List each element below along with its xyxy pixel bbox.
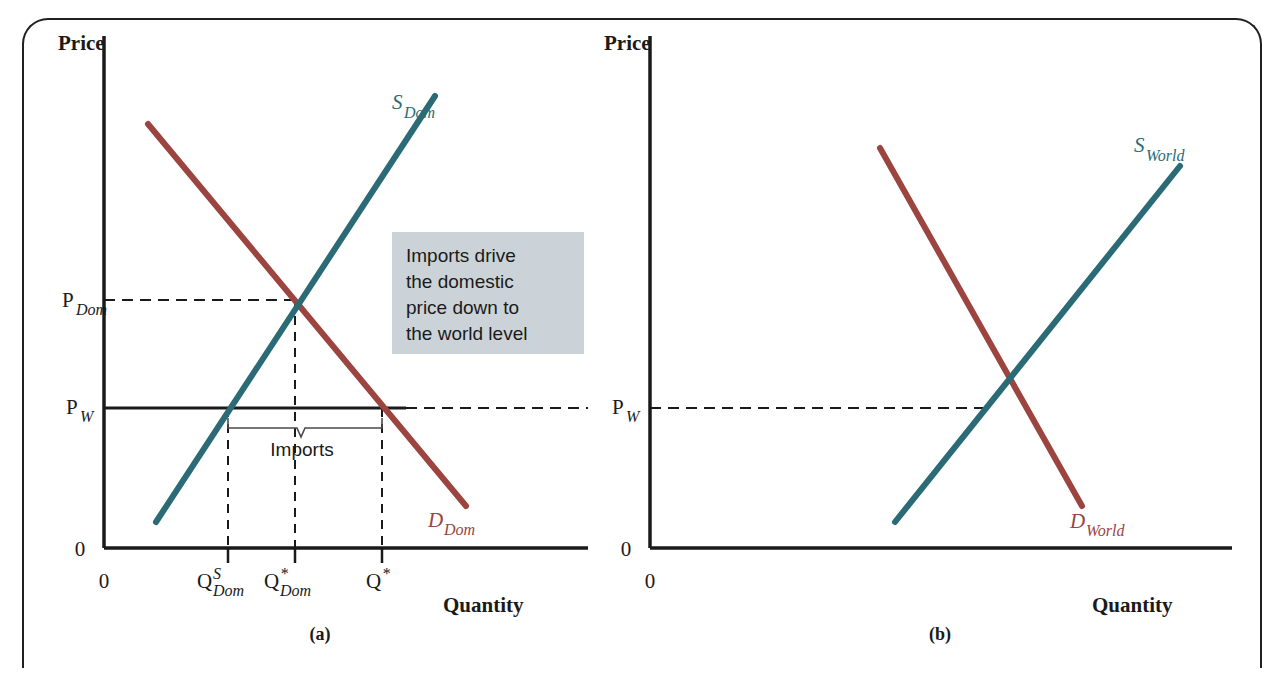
supply-label-domestic-sub: Dom <box>403 104 435 121</box>
origin-tick-label-a: 0 <box>99 569 110 593</box>
quantity-label-qstar: Q * <box>366 565 390 593</box>
price-label-pw-b-base: P <box>612 395 624 419</box>
x-axis-title-b: Quantity <box>1092 593 1173 617</box>
supply-label-world: S World <box>1134 133 1186 164</box>
demand-label-world: D World <box>1069 509 1126 539</box>
x-axis-title-a: Quantity <box>443 593 524 617</box>
imports-bracket-label: Imports <box>270 439 333 460</box>
quantity-label-qstardom-base: Q <box>264 569 279 593</box>
quantity-label-qsdom-sub: Dom <box>212 582 244 599</box>
quantity-label-qsdom: Q S Dom <box>197 565 244 599</box>
callout-line-4: the world level <box>406 323 527 344</box>
quantity-label-qsdom-base: Q <box>197 569 212 593</box>
panel-tag-b: (b) <box>929 624 951 645</box>
demand-label-domestic: D Dom <box>427 508 475 538</box>
quantity-label-qsdom-sup: S <box>213 565 221 582</box>
price-label-pdom-sub: Dom <box>75 301 107 318</box>
y-axis-title-b: Price <box>604 31 651 55</box>
price-label-pw-b: P W <box>612 395 641 425</box>
demand-label-domestic-base: D <box>427 508 443 532</box>
supply-label-domestic-base: S <box>392 90 403 114</box>
quantity-label-qstardom: Q * Dom <box>264 565 311 599</box>
figure-canvas: Imports drive the domestic price down to… <box>0 0 1272 674</box>
quantity-label-qstardom-sub: Dom <box>279 582 311 599</box>
callout-line-3: price down to <box>406 297 519 318</box>
callout-line-2: the domestic <box>406 271 514 292</box>
origin-label-a: 0 <box>75 537 86 561</box>
origin-label-b: 0 <box>621 537 632 561</box>
y-axis-title-a: Price <box>58 31 105 55</box>
supply-label-domestic: S Dom <box>392 90 435 121</box>
price-label-pdom-base: P <box>62 288 74 312</box>
supply-curve-world <box>895 166 1180 522</box>
price-label-pw-b-sub: W <box>626 408 641 425</box>
price-label-pdom: P Dom <box>62 288 107 318</box>
quantity-label-qstar-base: Q <box>366 569 381 593</box>
supply-label-world-base: S <box>1134 133 1145 157</box>
origin-tick-label-b: 0 <box>645 569 656 593</box>
price-label-pw-a-sub: W <box>80 408 95 425</box>
economics-figure: Imports drive the domestic price down to… <box>0 0 1272 674</box>
quantity-label-qstardom-sup: * <box>280 565 288 582</box>
demand-label-world-base: D <box>1069 509 1085 533</box>
supply-label-world-sub: World <box>1146 147 1186 164</box>
imports-bracket <box>228 418 382 437</box>
demand-label-domestic-sub: Dom <box>443 521 475 538</box>
quantity-label-qstar-sup: * <box>382 565 390 582</box>
price-label-pw-a-base: P <box>66 395 78 419</box>
demand-label-world-sub: World <box>1086 522 1126 539</box>
panel-tag-a: (a) <box>310 624 331 645</box>
callout-line-1: Imports drive <box>406 245 516 266</box>
price-label-pw-a: P W <box>66 395 95 425</box>
